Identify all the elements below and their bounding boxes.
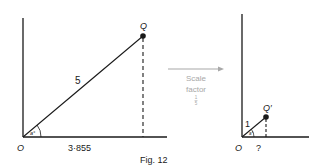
- left-base-label: 3·855: [68, 143, 91, 153]
- left-hypotenuse-label: 5: [75, 75, 81, 86]
- right-origin-label: O: [235, 143, 242, 153]
- figure-diagram: a° Q 5 O 3·855 Scale factor 1 5 a° Q′ 1 …: [0, 0, 325, 167]
- scale-factor-transform: Scale factor 1 5: [168, 67, 224, 107]
- right-point-label: Q′: [263, 103, 272, 113]
- figure-caption: Fig. 12: [140, 155, 168, 165]
- left-angle-label: a°: [30, 130, 36, 136]
- left-angle-arc: [37, 125, 41, 137]
- left-hypotenuse: [23, 36, 143, 137]
- left-diagram: a° Q 5 O 3·855: [17, 18, 167, 153]
- factor-label: factor: [186, 85, 206, 94]
- fraction-numerator: 1: [195, 95, 198, 100]
- scale-label: Scale: [186, 74, 207, 83]
- right-point-q-prime: [263, 114, 269, 120]
- left-point-q: [140, 33, 146, 39]
- arrow-head-icon: [218, 67, 224, 72]
- right-hypotenuse-label: 1: [245, 119, 250, 129]
- left-origin-label: O: [17, 143, 24, 153]
- left-point-label: Q: [140, 21, 147, 31]
- right-angle-label: a°: [249, 131, 254, 136]
- right-base-label: ?: [256, 143, 261, 153]
- right-diagram: a° Q′ 1 O ?: [235, 14, 309, 153]
- fraction-denominator: 5: [195, 101, 198, 106]
